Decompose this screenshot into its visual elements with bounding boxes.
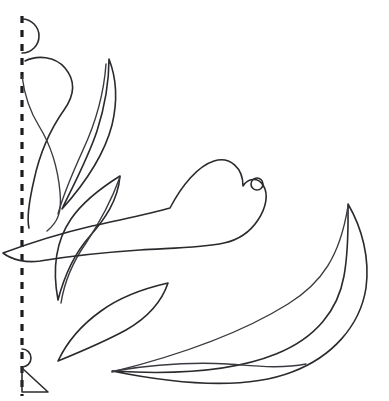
pattern-canvas	[0, 0, 389, 401]
motif-group	[3, 57, 367, 383]
upper-left-leaf-inner-edge	[61, 177, 120, 303]
fold-guide-group	[22, 16, 48, 396]
lower-left-leaf	[58, 283, 168, 361]
large-crescent-leaf	[112, 204, 367, 384]
narrow-blade-leaf	[62, 59, 116, 209]
top-registration-arc-icon	[22, 19, 39, 53]
heart-flower	[3, 160, 266, 262]
pattern-artwork	[0, 0, 389, 401]
corner-triangle-icon	[22, 368, 48, 392]
